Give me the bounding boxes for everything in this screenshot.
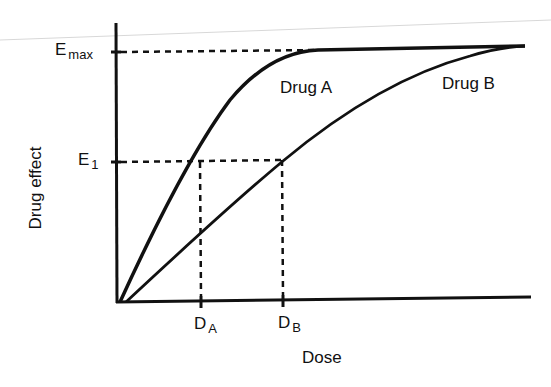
x-axis: [116, 297, 531, 302]
drug-b-label: Drug B: [442, 74, 495, 94]
da-guide-line: [200, 162, 201, 296]
e1-guide-line: [121, 160, 283, 162]
scan-artifact-line: [0, 20, 551, 40]
x-axis-label: Dose: [302, 348, 342, 368]
e1-tick-label: E1: [78, 150, 99, 170]
emax-tick-label: Emax: [55, 40, 93, 60]
da-tick-label: DA: [194, 314, 217, 334]
db-tick-label: DB: [278, 313, 301, 333]
y-axis-label: Drug effect: [26, 147, 46, 230]
emax-guide-line: [121, 50, 318, 52]
db-guide-line: [282, 160, 283, 295]
drug-a-label: Drug A: [280, 78, 332, 98]
